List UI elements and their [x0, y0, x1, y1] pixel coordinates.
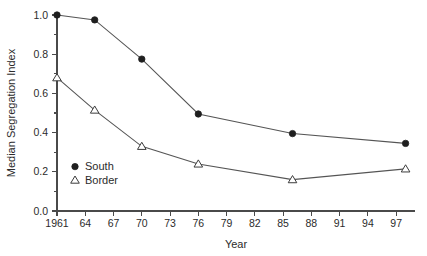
x-tick-label-1: 64	[79, 217, 91, 229]
x-tick-label-7: 82	[249, 217, 261, 229]
x-tick-label-0: 1961	[45, 217, 69, 229]
legend-label-border: Border	[85, 174, 118, 186]
y-tick-label-0: 0.0	[33, 205, 48, 217]
data-point-south-1	[91, 17, 97, 23]
y-tick-label-8: 0.8	[33, 48, 48, 60]
data-point-border-0	[53, 74, 62, 81]
data-point-south-4	[289, 130, 295, 136]
series-south	[54, 12, 409, 147]
segregation-index-line-chart: 0.00.20.40.60.81.0 196164677073767982858…	[0, 0, 427, 256]
data-series-group	[53, 12, 410, 183]
legend-label-south: South	[85, 160, 114, 172]
x-tick-label-12: 97	[390, 217, 402, 229]
y-axis: 0.00.20.40.60.81.0	[33, 9, 57, 217]
x-tick-label-8: 85	[277, 217, 289, 229]
y-tick-label-2: 0.2	[33, 165, 48, 177]
x-tick-label-10: 91	[334, 217, 346, 229]
x-axis: 1961646770737679828588919497	[45, 211, 415, 229]
series-line-south	[57, 15, 406, 143]
x-tick-label-9: 88	[306, 217, 318, 229]
x-tick-label-6: 79	[221, 217, 233, 229]
y-tick-label-4: 0.4	[33, 126, 48, 138]
x-tick-label-11: 94	[362, 217, 374, 229]
data-point-south-5	[402, 140, 408, 146]
data-point-south-3	[195, 111, 201, 117]
y-tick-label-6: 0.6	[33, 87, 48, 99]
chart-legend: SouthBorder	[71, 160, 119, 186]
x-tick-label-5: 76	[192, 217, 204, 229]
legend-marker-border	[71, 176, 80, 183]
data-point-border-5	[401, 165, 410, 172]
data-point-south-2	[139, 56, 145, 62]
chart-plot-area: 0.00.20.40.60.81.0 196164677073767982858…	[0, 0, 427, 256]
x-tick-label-2: 67	[108, 217, 120, 229]
x-tick-label-3: 70	[136, 217, 148, 229]
y-tick-label-10: 1.0	[33, 9, 48, 21]
x-tick-label-4: 73	[164, 217, 176, 229]
x-axis-title: Year	[225, 238, 248, 250]
legend-marker-south	[72, 163, 78, 169]
data-point-border-2	[137, 142, 146, 149]
y-axis-title: Median Segregation Index	[5, 48, 17, 177]
data-point-south-0	[54, 12, 60, 18]
